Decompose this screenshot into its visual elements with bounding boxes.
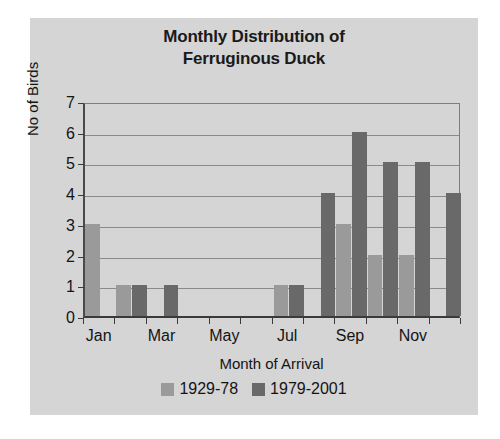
y-axis-tick-mark [78, 103, 84, 104]
x-axis-tick-mark [460, 318, 461, 324]
x-axis-tick-mark [177, 318, 178, 324]
y-axis-tick-label: 6 [45, 125, 75, 143]
y-axis-tick-mark [78, 134, 84, 135]
x-axis-tick-mark [429, 318, 430, 324]
x-axis-tick-label: Jan [74, 327, 124, 345]
x-axis-tick-mark [272, 318, 273, 324]
chart-title: Monthly Distribution of Ferruginous Duck [30, 26, 478, 70]
bar [289, 285, 304, 316]
legend-swatch [252, 383, 265, 396]
chart-title-line-2: Ferruginous Duck [30, 48, 478, 70]
y-axis-tick-mark [78, 287, 84, 288]
bar [336, 224, 351, 316]
bar [352, 132, 367, 316]
bar [116, 285, 131, 316]
x-axis-tick-mark [83, 318, 84, 324]
gridline [85, 165, 459, 166]
bar [368, 255, 383, 316]
x-axis-tick-label: Jul [262, 327, 312, 345]
x-axis-tick-mark [114, 318, 115, 324]
x-axis-tick-label: Mar [137, 327, 187, 345]
chart-figure: Monthly Distribution of Ferruginous Duck… [30, 18, 478, 415]
bar [446, 193, 461, 316]
y-axis-tick-mark [78, 164, 84, 165]
legend-entry: 1929-78 [161, 380, 238, 398]
bar [164, 285, 179, 316]
y-axis-tick-label: 1 [45, 278, 75, 296]
legend-label: 1929-78 [179, 380, 238, 398]
y-axis-tick-mark [78, 257, 84, 258]
bar [85, 224, 100, 316]
x-axis-tick-mark [366, 318, 367, 324]
bar [132, 285, 147, 316]
bar [399, 255, 414, 316]
bar [274, 285, 289, 316]
y-axis-tick-label: 7 [45, 94, 75, 112]
x-axis-tick-mark [146, 318, 147, 324]
x-axis-tick-mark [334, 318, 335, 324]
y-axis-tick-label: 5 [45, 155, 75, 173]
bar [321, 193, 336, 316]
x-axis-tick-label: May [199, 327, 249, 345]
chart-title-line-1: Monthly Distribution of [30, 26, 478, 48]
y-axis-tick-label: 3 [45, 217, 75, 235]
x-axis-tick-label: Sep [325, 327, 375, 345]
y-axis-tick-label: 2 [45, 248, 75, 266]
x-axis-tick-mark [397, 318, 398, 324]
chart-legend: 1929-781979-2001 [30, 380, 478, 398]
plot-area [83, 103, 460, 318]
bar [415, 162, 430, 316]
y-axis-tick-label: 0 [45, 309, 75, 327]
gridline [85, 196, 459, 197]
legend-swatch [161, 383, 174, 396]
legend-label: 1979-2001 [270, 380, 347, 398]
bar [383, 162, 398, 316]
x-axis-tick-label: Nov [388, 327, 438, 345]
y-axis-tick-mark [78, 226, 84, 227]
y-axis-tick-label: 4 [45, 186, 75, 204]
gridline [85, 227, 459, 228]
x-axis-tick-mark [209, 318, 210, 324]
x-axis-title: Month of Arrival [83, 355, 460, 372]
y-axis-title: No of Birds [24, 62, 41, 136]
legend-entry: 1979-2001 [252, 380, 347, 398]
x-axis-tick-mark [240, 318, 241, 324]
y-axis-tick-mark [78, 195, 84, 196]
gridline [85, 135, 459, 136]
x-axis-tick-mark [303, 318, 304, 324]
